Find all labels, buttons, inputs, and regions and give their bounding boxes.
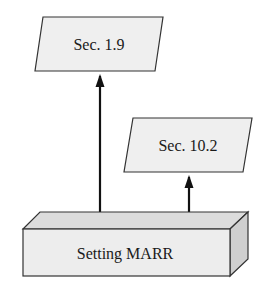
diagram-canvas: Sec. 1.9 Sec. 10.2 Setting MARR	[0, 0, 271, 292]
node-label: Sec. 10.2	[158, 137, 217, 154]
node-label: Setting MARR	[77, 245, 174, 263]
node-label: Sec. 1.9	[73, 36, 124, 53]
arrowhead-icon	[96, 74, 105, 87]
node-sec-1-9: Sec. 1.9	[35, 17, 163, 71]
box-top-face	[23, 212, 248, 229]
node-sec-10-2: Sec. 10.2	[124, 118, 252, 172]
node-setting-marr: Setting MARR	[23, 212, 248, 276]
arrowhead-icon	[185, 175, 194, 188]
